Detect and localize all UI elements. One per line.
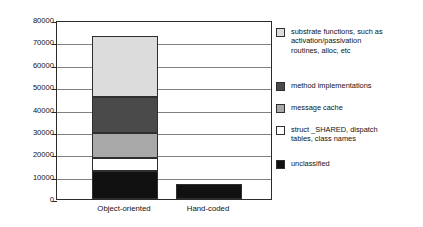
plot-area: [56, 21, 272, 200]
legend-item-label: struct _SHARED, dispatch tables, class n…: [291, 125, 378, 144]
legend-item-label: message cache: [291, 103, 343, 112]
y-axis-tick-label: 20000: [8, 151, 54, 159]
legend-item-label: method implementations: [291, 81, 372, 90]
legend-item-label: unclassified: [291, 159, 330, 168]
legend-item-message-cache[interactable]: message cache: [276, 103, 343, 113]
y-axis-tick-mark: [52, 67, 57, 68]
y-axis-tick-mark: [52, 22, 57, 23]
legend-item-substrate-functions[interactable]: substrate functions, such as activation/…: [276, 27, 383, 55]
y-axis-tick-label: 60000: [8, 62, 54, 70]
y-axis-tick-label: 80000: [8, 17, 54, 25]
gridline: [57, 134, 271, 135]
y-axis-tick-label: 30000: [8, 129, 54, 137]
gridline: [57, 44, 271, 45]
x-axis-tick-label: Hand-coded: [148, 204, 268, 213]
bar-object-oriented[interactable]: [92, 36, 158, 199]
legend-swatch-icon: [276, 82, 285, 91]
y-axis-tick-mark: [52, 156, 57, 157]
legend-swatch-icon: [276, 160, 285, 169]
legend-item-method-implementations[interactable]: method implementations: [276, 81, 372, 91]
gridline: [57, 156, 271, 157]
y-axis-tick-label: 0: [8, 196, 54, 204]
legend-item-label: substrate functions, such as activation/…: [291, 27, 383, 55]
y-axis-tick-mark: [52, 201, 57, 202]
bar-segment[interactable]: [92, 36, 158, 97]
y-axis: 8000070000600005000040000300002000010000…: [4, 0, 54, 227]
y-axis-tick-mark: [52, 112, 57, 113]
y-axis-tick-mark: [52, 179, 57, 180]
legend-item-unclassified[interactable]: unclassified: [276, 159, 330, 169]
bar-segment[interactable]: [92, 171, 158, 199]
gridline: [57, 89, 271, 90]
gridline: [57, 67, 271, 68]
y-axis-tick-mark: [52, 134, 57, 135]
gridline: [57, 112, 271, 113]
bar-segment[interactable]: [92, 97, 158, 133]
y-axis-tick-label: 70000: [8, 39, 54, 47]
gridline: [57, 179, 271, 180]
legend-swatch-icon: [276, 126, 285, 135]
bar-segment[interactable]: [176, 184, 242, 199]
y-axis-tick-label: 10000: [8, 174, 54, 182]
y-axis-tick-mark: [52, 89, 57, 90]
legend-swatch-icon: [276, 104, 285, 113]
chart-figure: 8000070000600005000040000300002000010000…: [0, 0, 423, 227]
y-axis-tick-mark: [52, 44, 57, 45]
legend-item-struct-shared[interactable]: struct _SHARED, dispatch tables, class n…: [276, 125, 378, 144]
legend-swatch-icon: [276, 28, 285, 37]
y-axis-tick-label: 40000: [8, 107, 54, 115]
bar-segment[interactable]: [92, 133, 158, 158]
bar-hand-coded[interactable]: [176, 184, 242, 199]
bar-segment[interactable]: [92, 158, 158, 171]
y-axis-tick-label: 50000: [8, 84, 54, 92]
